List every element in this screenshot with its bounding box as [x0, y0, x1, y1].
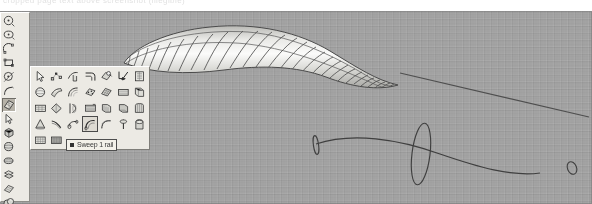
palette-item-surface-loft[interactable]	[98, 100, 115, 116]
cad-application-window: cropped page text above screenshot (ille…	[0, 0, 592, 204]
palette-row	[32, 84, 148, 100]
palette-item-surface-ribbon[interactable]	[49, 116, 66, 132]
sidebar-item-arc-center[interactable]	[2, 42, 16, 56]
sidebar-item-circle-center-radius[interactable]	[2, 14, 16, 28]
palette-row	[32, 116, 148, 132]
sidebar-item-mesh-plane[interactable]	[2, 182, 16, 196]
palette-item-surface-extrude[interactable]	[131, 84, 148, 100]
palette-item-empty-d	[115, 132, 132, 148]
palette-item-surface-cap[interactable]	[131, 116, 148, 132]
sidebar-item-boolean-union[interactable]	[2, 196, 16, 204]
palette-item-pointer-select[interactable]	[32, 68, 49, 84]
sidebar-item-box-solid[interactable]	[2, 126, 16, 140]
palette-item-surface-revolve[interactable]	[65, 100, 82, 116]
sidebar-item-rectangle-corner[interactable]	[2, 56, 16, 70]
palette-item-cone-surface[interactable]	[32, 116, 49, 132]
palette-item-surface-planar[interactable]	[115, 84, 132, 100]
palette-item-surface-offset[interactable]	[115, 116, 132, 132]
sidebar-item-surface-from-curves[interactable]	[2, 168, 16, 182]
palette-item-sweep-1-rail[interactable]	[82, 116, 99, 132]
palette-item-sphere-surface[interactable]	[32, 84, 49, 100]
palette-item-surface-edit-tool[interactable]	[65, 68, 82, 84]
caption-text: cropped page text above screenshot (ille…	[3, 0, 185, 5]
tooltip-marker-icon	[70, 143, 74, 147]
palette-item-surface-grid[interactable]	[32, 100, 49, 116]
palette-row	[32, 68, 148, 84]
palette-item-surface-patch[interactable]	[82, 84, 99, 100]
palette-item-empty-e	[131, 132, 148, 148]
surface-tools-palette[interactable]	[30, 66, 150, 150]
palette-row	[32, 100, 148, 116]
palette-item-surface-network[interactable]	[98, 84, 115, 100]
palette-item-surface-page[interactable]	[131, 68, 148, 84]
palette-item-surface-blend[interactable]	[115, 100, 132, 116]
palette-item-surface-drape[interactable]	[49, 100, 66, 116]
palette-item-surface-rail-revolve[interactable]	[82, 100, 99, 116]
palette-item-surface-heightfield[interactable]	[131, 100, 148, 116]
palette-item-surface-unroll[interactable]	[32, 132, 49, 148]
sidebar-item-circle-tangent[interactable]	[2, 70, 16, 84]
palette-item-surface-analysis[interactable]	[98, 68, 115, 84]
sidebar-item-surface-tools[interactable]	[2, 98, 16, 112]
palette-item-control-points-on[interactable]	[49, 68, 66, 84]
sidebar-item-sphere-solid[interactable]	[2, 140, 16, 154]
palette-tooltip: Sweep 1 rail	[66, 139, 117, 151]
palette-item-surface-mesh-from-nurbs[interactable]	[49, 132, 66, 148]
sidebar-item-ellipse[interactable]	[2, 28, 16, 42]
page-caption-strip: cropped page text above screenshot (ille…	[0, 0, 592, 11]
sidebar-item-ellipsoid[interactable]	[2, 154, 16, 168]
main-toolbar[interactable]	[0, 12, 30, 202]
palette-item-surface-pipe[interactable]	[65, 116, 82, 132]
tooltip-label: Sweep 1 rail	[77, 140, 113, 150]
sidebar-item-pointer-select[interactable]	[2, 112, 16, 126]
palette-item-surface-fillet[interactable]	[82, 68, 99, 84]
palette-item-sweep-2-rail[interactable]	[98, 116, 115, 132]
palette-item-surface-corner-points[interactable]	[49, 84, 66, 100]
palette-item-surface-3-4-edge[interactable]	[65, 84, 82, 100]
palette-item-surface-draft-angle[interactable]	[115, 68, 132, 84]
sidebar-item-curve-interpolate[interactable]	[2, 84, 16, 98]
